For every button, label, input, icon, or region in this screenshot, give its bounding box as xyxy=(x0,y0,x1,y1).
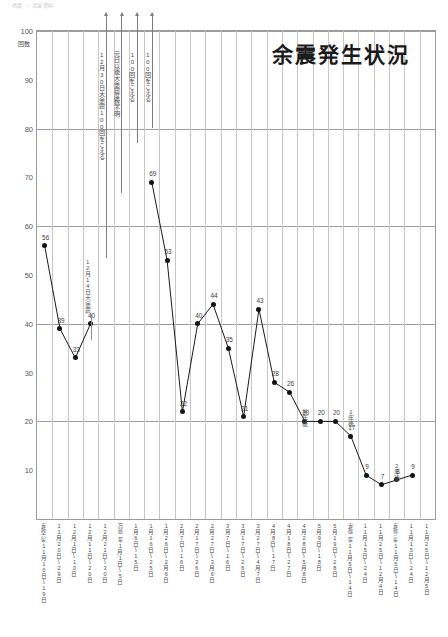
event-note-1-connector xyxy=(91,314,92,340)
data-point-label: 22 xyxy=(180,400,187,407)
x-axis-label: 3月7日〜16日 xyxy=(224,523,230,571)
y-tick-40: 40 xyxy=(7,319,33,328)
data-point-label: 26 xyxy=(287,380,294,387)
x-axis-label-era: 安政二年 xyxy=(347,523,353,543)
data-point-label: 53 xyxy=(165,248,172,255)
y-tick-100: 100 xyxy=(7,27,33,36)
data-point xyxy=(333,419,338,424)
period-note-half-year: 半年後 xyxy=(301,409,308,427)
y-tick-10: 10 xyxy=(7,466,33,475)
y-axis-ticks: 102030405060708090100 xyxy=(0,30,33,520)
event-note-1: 12月14日大余震 xyxy=(84,259,91,313)
y-tick-60: 60 xyxy=(7,222,33,231)
chart-title: 余震発生状況 xyxy=(272,38,410,68)
data-point-label: 33 xyxy=(73,346,80,353)
data-point-label: 43 xyxy=(256,297,263,304)
x-axis-label: 安政二年11月5日〜14日 xyxy=(347,523,353,597)
x-axis-label: 12月1日〜10日 xyxy=(71,523,77,577)
data-point xyxy=(226,346,231,351)
x-axis-label: 12月11日〜20日 xyxy=(86,523,92,583)
y-tick-70: 70 xyxy=(7,173,33,182)
arrow-note-3: 100回をこえる xyxy=(129,51,136,102)
x-axis-label: 11月20日〜29日 xyxy=(56,523,62,583)
data-point-label: 20 xyxy=(333,409,340,416)
x-axis-label: 4月8日〜17日 xyxy=(270,523,276,571)
data-point-label: 69 xyxy=(149,170,156,177)
arrow-note-2-arrow xyxy=(121,13,122,193)
x-axis-label: 2月27日〜3月6日 xyxy=(209,523,215,583)
x-axis-label: 5月19日〜28日 xyxy=(331,523,337,577)
x-axis-label-era: 安政三年 xyxy=(393,523,399,543)
data-point xyxy=(364,473,369,478)
x-axis-label: 1月26日〜2月6日 xyxy=(163,523,169,583)
x-axis-label: 2月17日〜26日 xyxy=(194,523,200,577)
data-point-label: 40 xyxy=(195,312,202,319)
arrow-note-2: 元日以後大余震度数不明 xyxy=(113,51,120,117)
y-tick-30: 30 xyxy=(7,368,33,377)
y-tick-90: 90 xyxy=(7,75,33,84)
data-point xyxy=(348,434,353,439)
x-axis-label: 11月15日〜24日 xyxy=(408,523,414,583)
data-point xyxy=(287,390,292,395)
corner-note: 地震 ・ 津波資料 xyxy=(12,1,53,8)
x-axis-label: 3月17日〜26日 xyxy=(239,523,245,577)
data-point xyxy=(272,380,277,385)
x-axis-label: 万延二年1月1日〜5日 xyxy=(117,523,123,585)
arrow-note-4-arrow xyxy=(152,13,153,128)
x-axis-label: 4月28日〜5月8日 xyxy=(301,523,307,583)
data-point-label: 9 xyxy=(411,463,415,470)
data-point-label: 20 xyxy=(318,409,325,416)
data-point-label: 7 xyxy=(381,473,385,480)
arrow-note-1: 12月30日大余震100回をこえる xyxy=(98,51,105,160)
chart-page: 地震 ・ 津波資料 回数 102030405060708090100 56393… xyxy=(0,0,448,637)
data-point-label: 56 xyxy=(42,234,49,241)
data-point xyxy=(165,258,170,263)
x-axis-label: 11月25日〜12月4日 xyxy=(377,523,383,595)
y-tick-20: 20 xyxy=(7,417,33,426)
data-point-label: 35 xyxy=(226,336,233,343)
plot-area: 5639334069532240443521432826202020179789… xyxy=(36,30,436,520)
x-axis-labels: 安政六年11月10日〜19日11月20日〜29日12月1日〜10日12月11日〜… xyxy=(36,523,436,635)
data-point-label: 9 xyxy=(365,463,369,470)
x-axis-label: 12月21日〜30日 xyxy=(102,523,108,583)
y-tick-50: 50 xyxy=(7,271,33,280)
data-point-label: 39 xyxy=(57,317,64,324)
x-axis-label-era: 万延二年 xyxy=(117,523,123,543)
data-point xyxy=(211,302,216,307)
series-layer: 5639334069532240443521432826202020179789 xyxy=(37,31,435,519)
data-point xyxy=(410,473,415,478)
arrow-note-4: 100回をこえる xyxy=(144,51,151,102)
y-tick-80: 80 xyxy=(7,124,33,133)
x-axis-label: 5月9日〜18日 xyxy=(316,523,322,571)
x-axis-label-era: 安政六年 xyxy=(41,523,47,543)
x-axis-label: 11月25日〜12月5日 xyxy=(423,523,429,595)
x-axis-label: 1月6日〜15日 xyxy=(132,523,138,571)
x-axis-label: 3月27日〜4月7日 xyxy=(255,523,261,583)
arrow-note-1-arrow xyxy=(106,13,107,258)
data-point-label: 28 xyxy=(272,370,279,377)
data-point-label: 44 xyxy=(210,292,217,299)
data-point-label: 21 xyxy=(241,405,248,412)
data-point xyxy=(318,419,323,424)
x-axis-label: 安政三年11月5日〜14日 xyxy=(393,523,399,597)
x-axis-label: 4月18日〜27日 xyxy=(285,523,291,577)
x-axis-label: 11月15日〜24日 xyxy=(362,523,368,583)
period-note-two-year: 2年後 xyxy=(393,463,400,481)
period-note-one-year: 1年後 xyxy=(347,409,354,427)
arrow-note-3-arrow xyxy=(137,13,138,143)
x-axis-label: 安政六年11月10日〜19日 xyxy=(40,523,46,603)
x-axis-label: 1月16日〜25日 xyxy=(148,523,154,577)
x-axis-label: 2月7日〜16日 xyxy=(178,523,184,571)
